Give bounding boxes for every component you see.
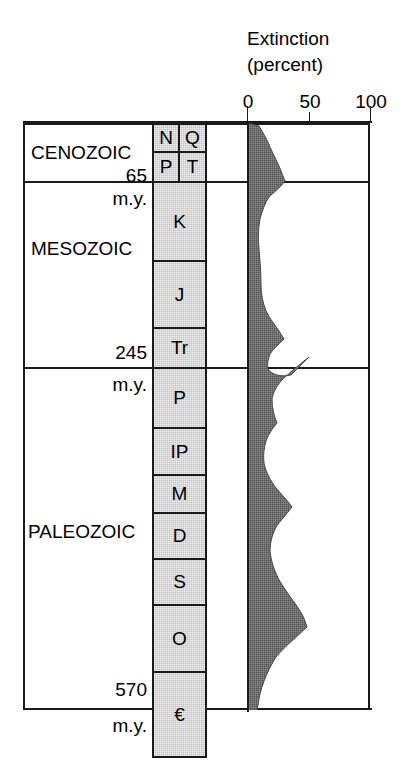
period-label: Tr — [171, 337, 188, 359]
period-label: € — [174, 704, 185, 726]
period-cell-pennsylvanian: IP — [152, 427, 207, 476]
period-label: P — [160, 156, 173, 178]
period-label: S — [173, 571, 186, 593]
period-cell-quaternary: Q — [178, 123, 207, 153]
period-cell-devonian: D — [152, 512, 207, 560]
boundary-unit-65: m.y. — [90, 189, 147, 208]
extinction-curve-plot — [247, 123, 370, 710]
figure-root: Extinction (percent) 0 50 100 CENOZOIC 6… — [0, 0, 411, 760]
boundary-unit-245: m.y. — [80, 375, 147, 394]
extinction-area-svg — [247, 123, 370, 710]
boundary-age-245: 245 — [80, 343, 147, 362]
period-cell-ordovician: O — [152, 604, 207, 673]
boundary-age-65: 65 — [90, 166, 147, 185]
period-label: Q — [185, 127, 200, 149]
period-label: J — [175, 284, 185, 306]
period-label: M — [172, 483, 188, 505]
chart-title: Extinction (percent) — [247, 26, 407, 78]
extinction-area-path — [247, 123, 309, 710]
x-axis-tick-label-100: 100 — [346, 92, 396, 111]
period-cell-neogene: N — [152, 123, 180, 153]
period-cell-tertiary: T — [178, 151, 207, 183]
period-cell-mississippian: M — [152, 474, 207, 514]
period-cell-silurian: S — [152, 558, 207, 606]
zero-axis-line — [247, 121, 249, 712]
period-label: N — [159, 127, 173, 149]
period-label: K — [173, 211, 186, 233]
period-cell-cambrian: € — [152, 671, 207, 758]
x-axis-tick-mark-0 — [247, 106, 248, 122]
boundary-unit-570: m.y. — [80, 716, 147, 735]
boundary-age-570: 570 — [80, 680, 147, 699]
period-label: P — [173, 387, 186, 409]
period-cell-jurassic: J — [152, 260, 207, 329]
x-axis-tick-label-50: 50 — [290, 92, 330, 111]
period-label: D — [173, 525, 187, 547]
period-cell-triassic: Tr — [152, 327, 207, 369]
period-cell-paleogene: P — [152, 151, 180, 183]
era-label-cenozoic: CENOZOIC — [31, 143, 131, 162]
era-label-paleozoic: PALEOZOIC — [28, 522, 135, 541]
x-axis-tick-label-0: 0 — [233, 92, 263, 111]
period-label: T — [187, 156, 199, 178]
period-label: IP — [171, 441, 189, 463]
period-column: N Q P T K J Tr P IP M D — [152, 123, 207, 710]
x-axis-tick-mark-100 — [370, 106, 371, 122]
period-label: O — [172, 628, 187, 650]
chart-title-line1: Extinction — [247, 28, 329, 49]
period-cell-cretaceous: K — [152, 181, 207, 262]
era-label-mesozoic: MESOZOIC — [31, 239, 132, 258]
chart-title-line2: (percent) — [247, 52, 407, 78]
period-cell-permian: P — [152, 367, 207, 429]
